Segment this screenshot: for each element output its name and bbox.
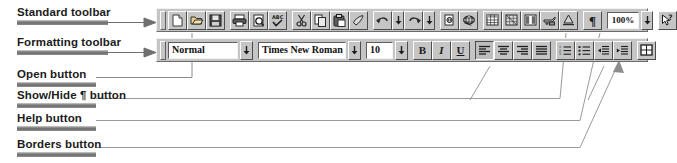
bold-button[interactable]: B — [413, 41, 432, 60]
new-document-button[interactable] — [168, 11, 187, 30]
insert-table-button[interactable] — [483, 11, 502, 30]
callout-underline-bar — [17, 82, 96, 87]
size-combo[interactable]: 10 — [366, 41, 408, 60]
callout-open-button: Open button — [17, 68, 96, 87]
list-indent-group: 123 — [556, 41, 632, 60]
spelling-button[interactable]: ABC — [268, 11, 287, 30]
print-preview-button[interactable] — [249, 11, 268, 30]
align-right-button[interactable] — [513, 41, 532, 60]
callout-underline-bar — [17, 126, 96, 131]
callout-underline-bar — [17, 103, 96, 108]
size-combo-dropdown-arrow[interactable] — [395, 41, 408, 60]
drawing-button[interactable] — [540, 11, 559, 30]
size-combo-value: 10 — [370, 45, 380, 55]
clipboard-button-group — [292, 11, 368, 30]
font-style-group: B I U — [413, 41, 470, 60]
underline-glyph: U — [457, 45, 465, 56]
file-button-group — [168, 11, 225, 30]
italic-button[interactable]: I — [432, 41, 451, 60]
copy-button[interactable] — [311, 11, 330, 30]
font-combo-dropdown-arrow[interactable] — [348, 41, 361, 60]
bullets-button[interactable] — [575, 41, 594, 60]
italic-glyph: I — [439, 45, 443, 56]
web-toolbar-button[interactable] — [459, 11, 478, 30]
callout-borders-button: Borders button — [17, 138, 96, 157]
style-combo-field[interactable]: Normal — [168, 42, 238, 59]
callout-label: Borders button — [17, 138, 96, 150]
callout-label: Show/Hide ¶ button — [17, 89, 96, 101]
alignment-group — [475, 41, 551, 60]
paste-button[interactable] — [330, 11, 349, 30]
redo-dropdown[interactable] — [423, 11, 435, 30]
table-button-group — [483, 11, 578, 30]
undo-dropdown[interactable] — [392, 11, 404, 30]
borders-group — [637, 41, 656, 60]
svg-text:ABC: ABC — [272, 14, 284, 20]
justify-button[interactable] — [532, 41, 551, 60]
style-combo-dropdown-arrow[interactable] — [240, 41, 253, 60]
undo-redo-group — [373, 11, 435, 30]
help-button[interactable]: ? — [658, 11, 677, 30]
callout-help-button: Help button — [17, 112, 96, 131]
cut-button[interactable] — [292, 11, 311, 30]
callout-underline-bar — [17, 152, 96, 157]
show-hide-paragraph-button[interactable]: ¶ — [583, 11, 602, 30]
print-button[interactable] — [230, 11, 249, 30]
undo-button[interactable] — [373, 11, 392, 30]
callout-label: Open button — [17, 68, 96, 80]
align-left-button[interactable] — [475, 41, 494, 60]
pilcrow-icon: ¶ — [589, 14, 596, 27]
insert-hyperlink-button[interactable] — [440, 11, 459, 30]
callout-label: Standard toolbar — [17, 6, 108, 18]
increase-indent-button[interactable] — [613, 41, 632, 60]
style-combo[interactable]: Normal — [168, 41, 253, 60]
borders-button[interactable] — [637, 41, 656, 60]
zoom-box[interactable]: 100% — [607, 12, 639, 29]
format-painter-button[interactable] — [349, 11, 368, 30]
decrease-indent-button[interactable] — [594, 41, 613, 60]
columns-button[interactable] — [521, 11, 540, 30]
zoom-help-group: 100% ? — [607, 11, 677, 30]
bold-glyph: B — [419, 45, 426, 56]
standard-toolbar: ABC — [156, 8, 648, 32]
font-combo-value: Times New Roman — [262, 45, 343, 55]
underline-button[interactable]: U — [451, 41, 470, 60]
style-combo-value: Normal — [172, 45, 205, 55]
web-button-group — [440, 11, 478, 30]
align-center-button[interactable] — [494, 41, 513, 60]
callout-label: Formatting toolbar — [17, 36, 108, 48]
zoom-dropdown[interactable] — [641, 11, 653, 30]
print-button-group: ABC — [230, 11, 287, 30]
font-combo[interactable]: Times New Roman — [258, 41, 361, 60]
document-map-button[interactable] — [559, 11, 578, 30]
zoom-value: 100% — [612, 16, 635, 25]
insert-excel-worksheet-button[interactable] — [502, 11, 521, 30]
callout-standard-toolbar: Standard toolbar — [17, 6, 108, 25]
font-combo-field[interactable]: Times New Roman — [258, 42, 346, 59]
svg-text:?: ? — [668, 14, 672, 22]
svg-text:3: 3 — [559, 52, 561, 56]
toolbar-grip-handle[interactable] — [160, 41, 166, 60]
toolbar-grip-handle[interactable] — [160, 11, 166, 30]
callout-underline-bar — [17, 20, 108, 25]
callout-formatting-toolbar: Formatting toolbar — [17, 36, 108, 55]
callout-label: Help button — [17, 112, 96, 124]
formatting-toolbar: Normal Times New Roman 10 B I U — [156, 38, 648, 62]
size-combo-field[interactable]: 10 — [366, 42, 393, 59]
save-button[interactable] — [206, 11, 225, 30]
callout-show-hide-button: Show/Hide ¶ button — [17, 89, 96, 108]
show-hide-group: ¶ — [583, 11, 602, 30]
redo-button[interactable] — [404, 11, 423, 30]
callout-underline-bar — [17, 50, 108, 55]
open-button[interactable] — [187, 11, 206, 30]
numbering-button[interactable]: 123 — [556, 41, 575, 60]
